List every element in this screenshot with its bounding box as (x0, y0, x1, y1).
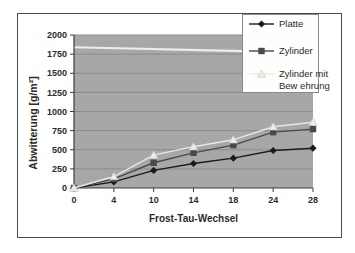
square-marker (150, 160, 156, 166)
x-tick-label: 14 (188, 195, 198, 205)
y-tick-label: 250 (52, 164, 67, 174)
legend-item-zylinder-mit-bew-ehrung: Zylinder mitBew ehrung (248, 68, 330, 91)
y-axis-title: Abwitterung [g/m²] (27, 76, 39, 169)
legend-label: Zylinder mitBew ehrung (279, 68, 330, 91)
y-tick-label: 1000 (47, 107, 67, 117)
y-tick-label: 750 (52, 126, 67, 136)
triangle-marker-icon (248, 68, 275, 80)
square-marker (190, 150, 196, 156)
y-tick-label: 1500 (47, 68, 67, 78)
x-tick-label: 28 (308, 195, 318, 205)
legend-label: Zylinder (279, 45, 313, 57)
legend-label: Platte (279, 18, 303, 30)
x-tick-label: 18 (228, 195, 238, 205)
diamond-marker (258, 20, 265, 27)
y-tick-label: 500 (52, 145, 67, 155)
y-tick-label: 1750 (47, 49, 67, 59)
legend-item-zylinder: Zylinder (248, 45, 313, 57)
legend-item-platte: Platte (248, 18, 303, 30)
y-tick-label: 2000 (47, 30, 67, 40)
y-tick-label: 0 (62, 183, 67, 193)
x-tick-label: 24 (268, 195, 278, 205)
x-tick-label: 4 (111, 195, 116, 205)
square-marker-icon (248, 45, 275, 57)
x-tick-label: 10 (149, 195, 159, 205)
square-marker (310, 126, 316, 132)
x-axis-title: Frost-Tau-Wechsel (149, 213, 238, 224)
y-tick-label: 1250 (47, 88, 67, 98)
scanned-chart-page: 0250500750100012501500175020000410141824… (0, 0, 355, 253)
chart-legend: PlatteZylinderZylinder mitBew ehrung (242, 14, 319, 93)
x-tick-label: 0 (71, 195, 76, 205)
diamond-marker-icon (248, 18, 275, 30)
square-marker (258, 48, 264, 54)
